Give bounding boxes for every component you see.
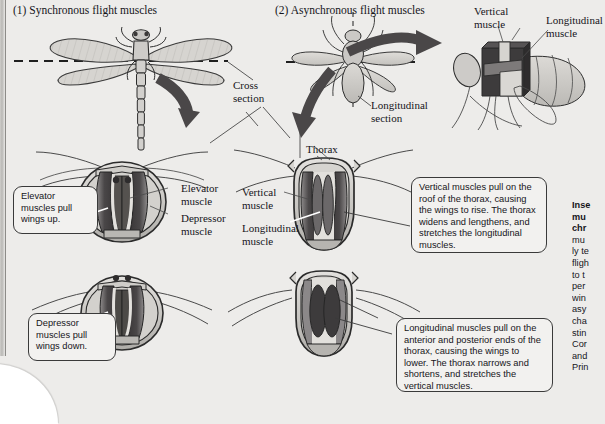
label-vertical-muscle-top-line2: muscle [474,18,505,31]
dragonfly-illustration [14,27,232,150]
leader-cross-section [228,62,253,80]
callout-vertical: Vertical muscles pull on the roof of the… [411,177,547,253]
side-body-line: fligh [572,258,605,270]
side-body-line: cha [572,316,605,328]
label-cross-section-line1: Cross [233,79,258,92]
wing-downstroke-arrow-2 [304,70,332,122]
label-vertical-muscle-mid-line1: Vertical [242,186,276,199]
side-body-line: Prin [572,362,605,374]
vertical-muscle-1 [312,175,323,235]
label-cross-section-line2: section [233,92,264,105]
side-body-line: stin [572,328,605,340]
side-body-line: mu [572,235,605,247]
side-body-line: asy [572,304,605,316]
page-gutter-shadow [0,0,6,356]
cross-section-longitudinal-down [228,271,420,356]
callout-depressor: Depressor muscles pull wings down. [28,313,116,361]
side-body-line: win [572,293,605,305]
label-longitudinal-muscle-top-line1: Longitudinal [546,14,603,27]
side-heading-line1: Inse [572,200,605,212]
side-heading-line3: chr [572,223,605,235]
label-longitudinal-muscle-mid-line1: Longitudinal [242,222,299,235]
side-body-line: to t [572,270,605,282]
label-vertical-muscle-mid-line2: muscle [242,199,273,212]
panel-title-synchronous: (1) Synchronous flight muscles [13,4,157,16]
side-body-line: and [572,351,605,363]
leader-longitudinal-section [358,96,371,106]
label-longitudinal-muscle-mid-line2: muscle [242,235,273,248]
label-longitudinal-section-line1: Longitudinal [371,99,428,112]
longitudinal-muscle-body-2 [324,285,340,337]
label-elevator-muscle-line1: Elevator [181,182,218,195]
label-vertical-muscle-top-line1: Vertical [474,5,508,18]
side-body-text: muly teflighto tperwinasychastinCorandPr… [572,235,605,374]
callout-longitudinal: Longitudinal muscles pull on the anterio… [396,318,553,392]
label-depressor-muscle-line1: Depressor [181,212,226,225]
side-body-line: ly te [572,246,605,258]
label-depressor-muscle-line2: muscle [181,225,212,238]
panel-title-asynchronous: (2) Asynchronous flight muscles [275,4,425,16]
side-heading-line2: mu [572,212,605,224]
wing-downstroke-arrow [158,78,188,114]
label-longitudinal-section-line2: section [371,112,402,125]
vertical-muscle-2 [323,175,334,235]
label-thorax: Thorax [306,143,338,156]
label-elevator-muscle-line2: muscle [181,195,212,208]
fly-lateral-cutaway [449,26,584,130]
side-body-line: Cor [572,339,605,351]
fly-dorsal-illustration [286,12,442,138]
side-text-column: Inse mu chr muly teflighto tperwinasycha… [572,200,605,414]
label-longitudinal-muscle-top-line2: muscle [546,27,577,40]
callout-elevator: Elevator muscles pull wings up. [13,186,98,234]
side-body-line: per [572,281,605,293]
